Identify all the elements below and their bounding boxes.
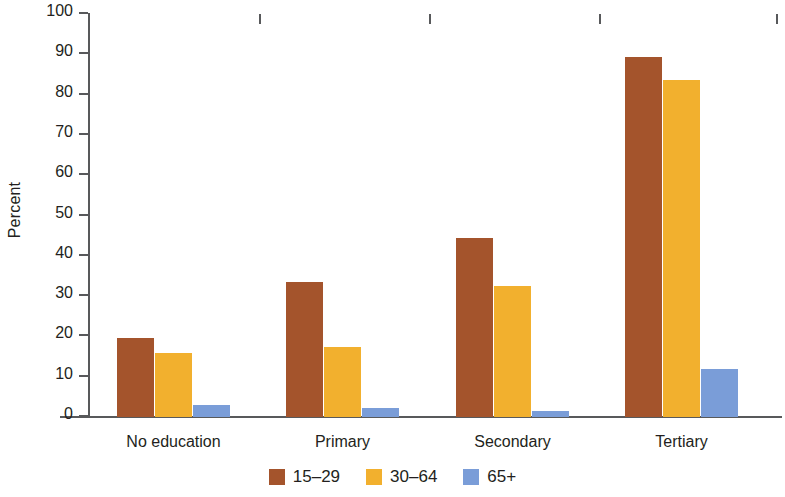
bar-group bbox=[625, 14, 738, 417]
x-axis-tick bbox=[776, 14, 778, 24]
bar bbox=[456, 238, 493, 417]
y-axis-tick-label: 40 bbox=[55, 243, 73, 263]
y-axis-title: Percent bbox=[0, 0, 30, 420]
y-axis-tick: 50 bbox=[79, 214, 88, 216]
bar-group bbox=[117, 14, 230, 417]
bar bbox=[324, 347, 361, 417]
legend-swatch-icon bbox=[269, 469, 285, 485]
plot-area: 0102030405060708090100 bbox=[88, 14, 778, 417]
y-axis-tick-label: 60 bbox=[55, 162, 73, 182]
bar bbox=[532, 411, 569, 417]
bar bbox=[362, 408, 399, 417]
x-axis-tick bbox=[429, 14, 431, 24]
y-axis-tick-label: 90 bbox=[55, 41, 73, 61]
legend-swatch-icon bbox=[366, 469, 382, 485]
x-axis-category-label: Primary bbox=[256, 432, 429, 452]
y-axis-tick: 90 bbox=[79, 52, 88, 54]
y-axis-tick: 30 bbox=[79, 294, 88, 296]
y-axis-tick: 100 bbox=[79, 12, 88, 14]
bar bbox=[701, 369, 738, 417]
y-axis-tick: 40 bbox=[79, 254, 88, 256]
bar-group bbox=[456, 14, 569, 417]
y-axis-title-label: Percent bbox=[6, 182, 24, 239]
legend-item[interactable]: 65+ bbox=[463, 468, 516, 486]
x-axis-category-label: Tertiary bbox=[595, 432, 768, 452]
x-axis-category-label: Secondary bbox=[426, 432, 599, 452]
y-axis-tick-label: 20 bbox=[55, 323, 73, 343]
bar-chart: Percent 0102030405060708090100 No educat… bbox=[0, 0, 785, 497]
y-axis-tick: 10 bbox=[79, 375, 88, 377]
y-axis-tick: 0 bbox=[79, 415, 88, 417]
legend-label: 65+ bbox=[487, 468, 516, 486]
x-axis-tick bbox=[88, 14, 90, 24]
y-axis-tick: 70 bbox=[79, 133, 88, 135]
y-axis-tick-label: 0 bbox=[64, 404, 73, 424]
y-axis-tick: 20 bbox=[79, 334, 88, 336]
legend-swatch-icon bbox=[463, 469, 479, 485]
x-axis-tick bbox=[259, 14, 261, 24]
bar bbox=[155, 353, 192, 417]
x-axis-category-label: No education bbox=[87, 432, 260, 452]
legend-label: 30–64 bbox=[390, 468, 437, 486]
bar bbox=[286, 282, 323, 417]
legend-item[interactable]: 30–64 bbox=[366, 468, 437, 486]
y-axis-tick-label: 50 bbox=[55, 203, 73, 223]
bar bbox=[193, 405, 230, 417]
x-axis-tick bbox=[599, 14, 601, 24]
bar bbox=[494, 286, 531, 417]
bar-group bbox=[286, 14, 399, 417]
chart-legend: 15–2930–6465+ bbox=[0, 468, 785, 486]
bar bbox=[117, 338, 154, 417]
bar bbox=[625, 57, 662, 417]
bar bbox=[663, 80, 700, 417]
y-axis-tick-label: 80 bbox=[55, 82, 73, 102]
y-axis-tick-label: 30 bbox=[55, 283, 73, 303]
legend-item[interactable]: 15–29 bbox=[269, 468, 340, 486]
y-axis-tick: 80 bbox=[79, 93, 88, 95]
y-axis-tick-label: 70 bbox=[55, 122, 73, 142]
legend-label: 15–29 bbox=[293, 468, 340, 486]
y-axis-tick: 60 bbox=[79, 173, 88, 175]
y-axis-tick-label: 100 bbox=[46, 1, 73, 21]
y-axis-tick-label: 10 bbox=[55, 364, 73, 384]
